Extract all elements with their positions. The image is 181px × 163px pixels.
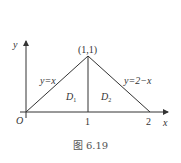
origin-label: O	[16, 115, 23, 126]
line-y-eq-x	[26, 56, 88, 112]
x-axis-label: x	[162, 117, 168, 128]
tick-label-1: 1	[85, 116, 90, 127]
region-label-d1: D1	[65, 91, 76, 103]
curve-label-y-eq-x: y=x	[39, 75, 56, 86]
region-label-d2: D2	[100, 91, 111, 103]
point-label: (1,1)	[78, 44, 97, 56]
y-axis-label: y	[12, 39, 18, 50]
figure-caption: 图 6.19	[0, 137, 181, 152]
tick-label-2: 2	[146, 116, 151, 127]
curve-label-y-eq-2-minus-x: y=2−x	[123, 75, 152, 86]
